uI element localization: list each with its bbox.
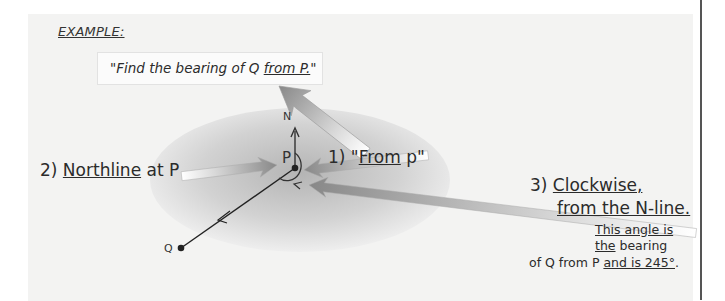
step-2-label: 2) Northline at P [40,160,179,180]
note-line-2: the bearing [595,238,667,253]
shaded-ellipse [150,108,450,252]
step-3-label-line2: from the N-line. [557,198,690,218]
north-label: N [283,110,291,123]
step-3-label-line1: 3) Clockwise, [530,175,642,195]
note-line-3: of Q from P and is 245°. [529,255,679,270]
q-label: Q [164,242,173,255]
point-p [292,165,299,172]
note-line-1: This angle is [595,222,673,237]
step-1-label: 1) "From p" [328,147,425,167]
point-q [178,245,185,252]
p-label: P [282,149,291,167]
